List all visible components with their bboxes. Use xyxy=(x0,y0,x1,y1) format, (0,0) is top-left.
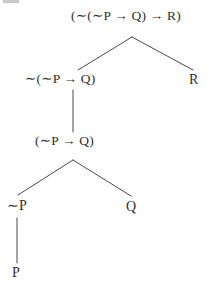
tree-node-q: Q xyxy=(126,200,136,214)
tree-node-p: P xyxy=(12,266,20,280)
tree-node-negated-conditional: ∼(∼P → Q) xyxy=(25,72,95,86)
tree-node-root: (∼(∼P → Q) → R) xyxy=(71,9,181,23)
tree-node-r: R xyxy=(189,73,199,87)
edge-left2-to-notp xyxy=(18,160,73,195)
edge-root-to-left1 xyxy=(78,37,132,70)
edge-root-to-right1 xyxy=(132,37,193,70)
formula-tree-diagram: (∼(∼P → Q) → R) ∼(∼P → Q) R (∼P → Q) ∼P … xyxy=(0,0,210,289)
tree-node-conditional: (∼P → Q) xyxy=(35,134,94,148)
tree-node-not-p: ∼P xyxy=(7,199,27,213)
edge-left2-to-q xyxy=(73,160,131,196)
tree-edges xyxy=(0,0,210,289)
